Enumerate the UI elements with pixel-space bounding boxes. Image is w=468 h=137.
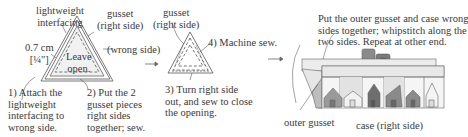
arrow-right-icon (268, 57, 283, 61)
label-outer-gusset: outer gusset (284, 117, 334, 129)
label-wrong-side: (wrong side) (107, 44, 160, 56)
step3-text: 3) Turn right side out, and sew to close… (165, 84, 253, 119)
step1-text: 1) Attach the lightweight interfacing to… (8, 87, 64, 133)
label-leave-open: Leave open. (66, 51, 92, 74)
label-lightweight-interfacing: lightweight interfacing (36, 5, 84, 28)
whipstitch-instruction: Put the outer gusset and case wrong side… (318, 13, 468, 48)
label-gusset-right-side-2: gusset (right side) (153, 7, 199, 30)
arrow-right-icon (145, 62, 158, 66)
label-case-right-side: case (right side) (356, 120, 423, 132)
step2-text: 2) Put the 2 gusset pieces right sides t… (87, 87, 145, 133)
label-seam-allowance: 0.7 cm [¼"] (25, 42, 54, 65)
label-gusset-right-side: gusset (right side) (97, 8, 143, 31)
gusset-triangle-step2 (168, 22, 213, 80)
step4-text: 4) Machine sew. (208, 37, 277, 49)
